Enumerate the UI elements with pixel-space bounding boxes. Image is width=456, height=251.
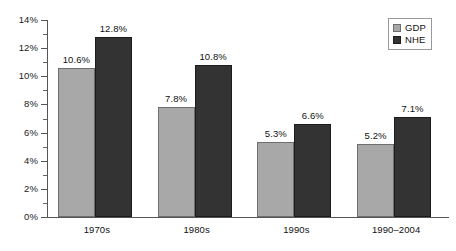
y-tick-label: 2% <box>4 184 38 194</box>
category-label-2: 1990s <box>247 224 347 235</box>
y-tick-label: 14% <box>4 15 38 25</box>
y-tick-label-wrap: 8% <box>0 99 38 109</box>
y-tick-label: 10% <box>4 71 38 81</box>
y-tick-label-wrap: 14% <box>0 15 38 25</box>
y-tick-label-wrap: 10% <box>0 71 38 81</box>
category-label-0: 1970s <box>47 224 147 235</box>
bar-gdp-3 <box>357 144 394 217</box>
legend-swatch-nhe-icon <box>393 36 401 44</box>
y-tick-label: 4% <box>4 156 38 166</box>
bar-nhe-0 <box>95 37 132 217</box>
bar-value-label-nhe-2: 6.6% <box>287 111 338 121</box>
y-tick-label: 12% <box>4 43 38 53</box>
y-tick-label-wrap: 2% <box>0 184 38 194</box>
y-tick-label-wrap: 4% <box>0 156 38 166</box>
category-label-3: 1990–2004 <box>346 224 446 235</box>
y-tick-label: 6% <box>4 128 38 138</box>
legend-label-gdp: GDP <box>405 23 426 33</box>
bar-chart: 0%2%4%6%8%10%12%14% 10.6%12.8%7.8%10.8%5… <box>0 0 456 251</box>
y-tick-label: 0% <box>4 212 38 222</box>
bar-nhe-3 <box>394 117 431 217</box>
y-tick-major <box>41 217 47 218</box>
x-axis-line <box>47 217 449 218</box>
bar-nhe-2 <box>294 124 331 217</box>
plot-area: 10.6%12.8%7.8%10.8%5.3%6.6%5.2%7.1% <box>47 20 446 217</box>
legend-item-nhe[interactable]: NHE <box>393 34 426 46</box>
legend-swatch-gdp-icon <box>393 24 401 32</box>
bar-gdp-1 <box>158 107 195 217</box>
legend-item-gdp[interactable]: GDP <box>393 22 426 34</box>
y-tick-label: 8% <box>4 99 38 109</box>
bar-value-label-nhe-3: 7.1% <box>387 104 438 114</box>
bar-value-label-nhe-0: 12.8% <box>88 24 139 34</box>
bar-gdp-0 <box>58 68 95 217</box>
y-tick-label-wrap: 12% <box>0 43 38 53</box>
bar-nhe-1 <box>195 65 232 217</box>
category-label-1: 1980s <box>147 224 247 235</box>
bar-value-label-nhe-1: 10.8% <box>188 52 239 62</box>
y-tick-label-wrap: 6% <box>0 128 38 138</box>
y-tick-label-wrap: 0% <box>0 212 38 222</box>
bar-gdp-2 <box>257 142 294 217</box>
legend-label-nhe: NHE <box>405 35 425 45</box>
chart-legend: GDP NHE <box>388 18 432 50</box>
